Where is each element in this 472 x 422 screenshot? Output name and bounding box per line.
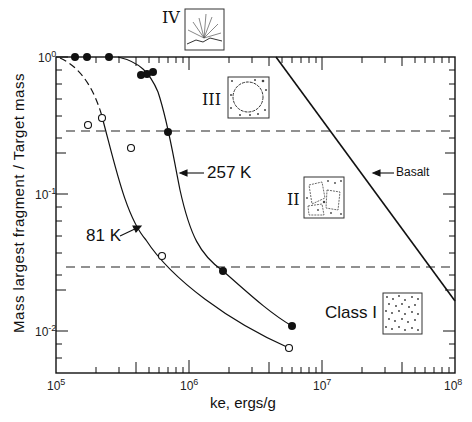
y-tick-label-2: 10-2	[35, 323, 56, 339]
class-iii-label: III	[202, 90, 221, 109]
class-ii-sketch-icon	[304, 177, 344, 218]
class-i-sketch-icon	[383, 293, 422, 334]
x-axis-title: ke, ergs/g	[210, 394, 276, 411]
x-tick-label-2: 107	[313, 377, 331, 393]
class-iv-label: IV	[162, 8, 180, 27]
y-axis-title: Mass largest fragment / Target mass	[10, 73, 27, 333]
basalt-label: Basalt	[396, 165, 429, 179]
curve-basalt	[276, 57, 455, 301]
y-tick-label-0: 100	[38, 49, 56, 65]
class-iii-sketch-icon	[228, 77, 269, 118]
x-axis-ticks	[96, 360, 449, 373]
y-tick-label-1: 10-1	[35, 186, 56, 202]
class-i-label: Class I	[325, 303, 377, 323]
curve-81k-label: 81 K	[86, 226, 121, 246]
curve-257k-label: 257 K	[207, 163, 251, 183]
x-tick-label-0: 105	[47, 377, 65, 393]
y-axis-right-ticks	[443, 70, 455, 358]
x-tick-label-1: 106	[180, 377, 198, 393]
chart-canvas	[0, 0, 472, 422]
class-ii-label: II	[287, 190, 300, 209]
x-tick-label-3: 108	[444, 377, 462, 393]
x-axis-top-ticks	[96, 57, 449, 70]
curve-81k-dashed	[60, 58, 101, 113]
y-axis-ticks	[56, 57, 68, 358]
class-iv-sketch-icon	[185, 9, 224, 50]
label-arrows	[120, 170, 394, 236]
